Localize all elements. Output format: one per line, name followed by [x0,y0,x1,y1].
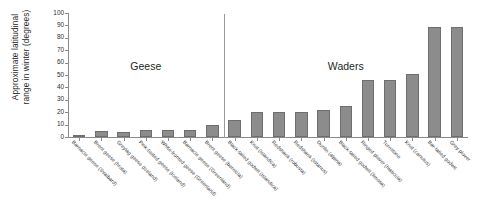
bar [317,110,329,137]
y-tick-mark [65,13,69,14]
bar [73,135,85,137]
y-tick-mark [65,38,69,39]
y-tick-mark [65,50,69,51]
bar [95,131,107,137]
y-tick-label: 70 [44,46,64,53]
x-axis-label: Brent geese (bernicla) [204,139,244,179]
y-tick-label: 50 [44,71,64,78]
y-axis-title-text: Approximate latitudinal range in winter … [10,10,31,105]
group-divider [224,14,225,138]
y-axis-title: Approximate latitudinal range in winter … [10,0,44,122]
y-tick-mark [65,25,69,26]
x-axis-label: Greylag geese (Iceland) [115,139,158,182]
bar [206,125,218,137]
x-axis-line [68,137,468,138]
y-tick-label: 100 [44,9,64,16]
bar [251,112,263,137]
bar [340,106,352,137]
y-tick-mark [65,112,69,113]
y-tick-label: 90 [44,21,64,28]
y-axis-line [68,14,69,138]
y-tick-mark [65,75,69,76]
x-axis-label: Turnstone [382,139,403,160]
y-tick-label: 20 [44,108,64,115]
bar [117,132,129,137]
group-title-waders: Waders [328,60,364,72]
y-tick-mark [65,87,69,88]
x-axis-label: Grey plover [449,139,472,162]
y-tick-label: 30 [44,95,64,102]
bar [451,27,463,137]
bar [273,112,285,137]
y-tick-label: 0 [44,133,64,140]
group-title-geese: Geese [130,60,161,72]
bar [162,130,174,137]
bar [140,130,152,137]
x-axis-label: Ringed plover (hiaticula) [360,139,404,183]
bar-chart: Approximate latitudinal range in winter … [0,0,491,217]
y-tick-label: 40 [44,83,64,90]
bar [228,120,240,137]
bar [362,80,374,137]
y-tick-label: 60 [44,58,64,65]
y-tick-mark [65,100,69,101]
x-axis-label-container: Barnacle geese (Svalbard)Brent geese (hr… [68,139,491,217]
bar [406,74,418,137]
bar [384,80,396,137]
bar [428,27,440,137]
y-tick-mark [65,137,69,138]
bar [295,112,307,137]
y-tick-mark [65,63,69,64]
plot-area: 0102030405060708090100 GeeseWaders [68,14,468,138]
y-tick-label: 80 [44,33,64,40]
y-tick-label: 10 [44,120,64,127]
bar [184,130,196,137]
y-tick-mark [65,125,69,126]
